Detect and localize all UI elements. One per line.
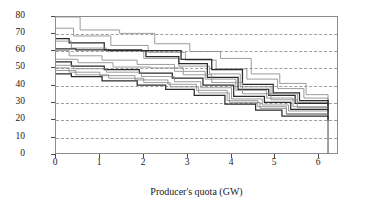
y-tick-label-60: 60 [0, 45, 25, 55]
chart-figure: Price (€/MWh) 80 70 60 50 40 30 20 10 0 … [0, 0, 366, 212]
x-tick-label-4: 4 [219, 158, 243, 168]
curve-9 [56, 65, 328, 116]
curve-8 [56, 62, 328, 115]
x-axis-title: Producer's quota (GW) [55, 186, 338, 197]
y-tick-label-10: 10 [0, 132, 25, 142]
y-tick-label-70: 70 [0, 28, 25, 38]
y-tick-label-80: 80 [0, 11, 25, 21]
curve-5 [56, 49, 328, 110]
y-tick-label-30: 30 [0, 97, 25, 107]
plot-area [55, 16, 338, 154]
y-tick-label-50: 50 [0, 62, 25, 72]
x-tick-label-5: 5 [262, 158, 286, 168]
step-curves-group [56, 17, 337, 153]
x-tick-label-1: 1 [87, 158, 111, 168]
x-tick-label-0: 0 [43, 158, 67, 168]
y-tick-label-0: 0 [0, 149, 25, 159]
y-tick-label-40: 40 [0, 80, 25, 90]
x-tick-label-2: 2 [131, 158, 155, 168]
y-tick-label-20: 20 [0, 114, 25, 124]
x-tick-label-6: 6 [306, 158, 330, 168]
x-tick-label-3: 3 [175, 158, 199, 168]
plot-inner [56, 17, 337, 153]
